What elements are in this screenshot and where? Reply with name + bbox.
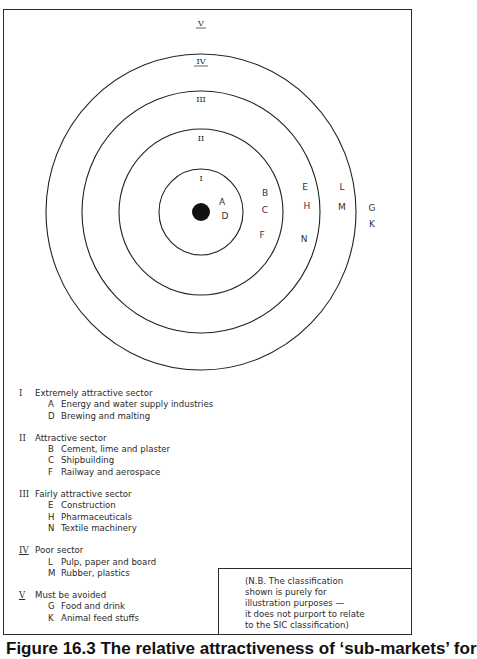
bullseye-dot [192,203,210,221]
item-code: B [48,444,61,455]
legend-group-i: IExtremely attractive sectorAEnergy and … [19,388,213,422]
legend-item: DBrewing and malting [19,411,213,422]
item-code: A [48,399,61,410]
sector-numeral: II [19,433,35,444]
point-h: H [304,201,311,211]
legend-item: AEnergy and water supply industries [19,399,213,410]
item-code: K [48,613,61,624]
sector-title: Attractive sector [35,433,107,444]
item-code: H [48,512,61,523]
note-line: illustration purposes — [245,598,412,609]
item-label: Animal feed stuffs [61,613,139,624]
item-code: G [48,601,61,612]
legend-item: GFood and drink [19,601,213,612]
point-b: B [262,188,268,198]
point-e: E [302,182,308,192]
point-n: N [301,234,308,244]
item-code: C [48,455,61,466]
item-label: Shipbuilding [61,455,114,466]
legend-item: LPulp, paper and board [19,557,213,568]
point-k: K [369,219,376,229]
legend-item: EConstruction [19,500,213,511]
figure-caption: Figure 16.3 The relative attractiveness … [6,639,477,659]
item-label: Energy and water supply industries [61,399,213,410]
legend-item: HPharmaceuticals [19,512,213,523]
legend-group-ii: IIAttractive sectorBCement, lime and pla… [19,433,213,478]
ring-label-iii: III [196,95,205,104]
item-label: Cement, lime and plaster [61,444,170,455]
item-code: D [48,411,61,422]
item-label: Brewing and malting [61,411,150,422]
point-g: G [369,203,376,213]
sector-title: Must be avoided [35,590,106,601]
item-code: M [48,568,61,579]
sector-title: Fairly attractive sector [35,489,132,500]
item-label: Food and drink [61,601,125,612]
sector-title: Extremely attractive sector [35,388,152,399]
legend-sector-heading: VMust be avoided [19,590,213,601]
legend: IExtremely attractive sectorAEnergy and … [19,388,213,635]
legend-item: NTextile machinery [19,523,213,534]
item-label: Railway and aerospace [61,467,160,478]
note-line: it does not purport to relate [245,609,412,620]
point-m: M [338,202,346,212]
legend-item: FRailway and aerospace [19,467,213,478]
legend-item: BCement, lime and plaster [19,444,213,455]
item-label: Rubber, plastics [61,568,130,579]
legend-item: MRubber, plastics [19,568,213,579]
ring-label-i: I [199,174,202,183]
point-l: L [339,182,344,192]
item-code: L [48,557,61,568]
item-code: E [48,500,61,511]
item-label: Construction [61,500,116,511]
target-diagram: V IV III II I ADBCFEHNLMGK [0,0,418,400]
item-label: Pharmaceuticals [61,512,132,523]
legend-item: KAnimal feed stuffs [19,613,213,624]
item-label: Pulp, paper and board [61,557,156,568]
legend-sector-heading: IExtremely attractive sector [19,388,213,399]
legend-item: CShipbuilding [19,455,213,466]
classification-note: (N.B. The classificationshown is purely … [218,568,412,635]
point-c: C [262,205,268,215]
ring-label-iv: IV [197,57,206,66]
point-d: D [222,211,229,221]
legend-group-v: VMust be avoidedGFood and drinkKAnimal f… [19,590,213,624]
legend-sector-heading: IIAttractive sector [19,433,213,444]
legend-sector-heading: IVPoor sector [19,545,213,556]
note-line: shown is purely for [245,587,412,598]
note-line: to the SIC classification) [245,620,412,631]
sector-numeral: V [19,590,35,601]
item-code: N [48,523,61,534]
point-f: F [259,230,264,240]
sector-numeral: IV [19,545,35,556]
sector-title: Poor sector [35,545,83,556]
sector-numeral: I [19,388,35,399]
note-line: (N.B. The classification [245,576,412,587]
legend-group-iv: IVPoor sectorLPulp, paper and boardMRubb… [19,545,213,579]
item-label: Textile machinery [61,523,137,534]
item-code: F [48,467,61,478]
point-a: A [219,197,226,207]
ring-label-ii: II [198,134,204,143]
ring-label-v: V [197,19,204,28]
sector-numeral: III [19,489,35,500]
legend-sector-heading: IIIFairly attractive sector [19,489,213,500]
legend-group-iii: IIIFairly attractive sectorEConstruction… [19,489,213,534]
